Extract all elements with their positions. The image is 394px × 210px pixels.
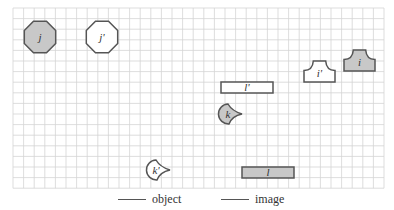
- shape-label-k_prime: k': [152, 164, 160, 176]
- shape-i: i: [344, 50, 375, 71]
- transformation-diagram: jj'i'il'kk'l: [0, 0, 394, 210]
- legend-object-line: [118, 199, 146, 200]
- shape-k: k: [218, 104, 242, 124]
- legend-object-label: object: [152, 192, 181, 207]
- shape-label-j_prime: j': [97, 31, 105, 43]
- shape-l: l: [242, 166, 294, 178]
- grid: [13, 8, 384, 188]
- shape-label-l_prime: l': [244, 81, 250, 93]
- shape-j: j: [24, 21, 55, 52]
- legend-object: object: [118, 192, 181, 206]
- shape-j_prime: j': [86, 21, 117, 52]
- legend-image-line: [221, 199, 249, 200]
- legend-image-label: image: [255, 192, 284, 207]
- shape-label-i_prime: i': [317, 67, 323, 79]
- legend-image: image: [221, 192, 284, 206]
- shape-l_prime: l': [221, 81, 273, 93]
- shape-i_prime: i': [304, 61, 335, 82]
- shape-label-i: i: [358, 56, 361, 68]
- shape-k_prime: k': [146, 160, 170, 180]
- shape-label-l: l: [266, 166, 269, 178]
